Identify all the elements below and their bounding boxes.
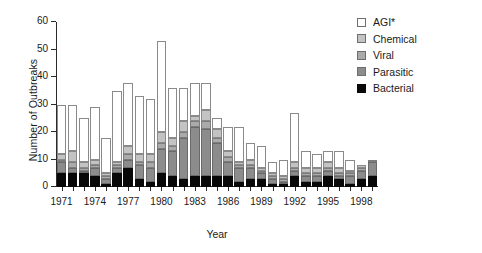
bar-segment — [179, 88, 189, 121]
x-axis-tick-label: 1992 — [284, 196, 306, 207]
x-axis-tick — [161, 187, 162, 191]
bar-segment — [79, 171, 89, 174]
bar-segment — [135, 162, 145, 165]
bar-segment — [135, 96, 145, 154]
bar[interactable] — [357, 165, 367, 187]
bar-segment — [190, 83, 200, 116]
bar[interactable] — [190, 83, 200, 188]
bar[interactable] — [279, 160, 289, 188]
bar-segment — [135, 179, 145, 187]
bar-segment — [79, 118, 89, 162]
bar-segment — [334, 168, 344, 174]
y-axis-tick: 20 — [51, 131, 56, 132]
x-axis-tick — [261, 187, 262, 191]
bar-segment — [246, 168, 256, 179]
bar[interactable] — [90, 107, 100, 187]
y-axis-tick: 0 — [51, 186, 56, 187]
legend-item[interactable]: Parasitic — [357, 64, 475, 81]
bar-segment — [223, 162, 233, 176]
bar[interactable] — [123, 83, 133, 188]
bar[interactable] — [79, 118, 89, 187]
legend-item[interactable]: Viral — [357, 47, 475, 64]
bar-segment — [157, 143, 167, 149]
bar-segment — [123, 168, 133, 187]
bar-segment — [323, 171, 333, 177]
bar-segment — [212, 143, 222, 176]
bar-segment — [68, 173, 78, 187]
bar-segment — [190, 127, 200, 177]
x-axis-tick-label: 1989 — [250, 196, 272, 207]
bar-segment — [323, 176, 333, 187]
bar[interactable] — [257, 146, 267, 187]
x-axis-tick — [173, 187, 174, 191]
bar-segment — [257, 173, 267, 179]
bar[interactable] — [68, 105, 78, 188]
bar-segment — [312, 173, 322, 176]
bar[interactable] — [334, 151, 344, 187]
bar[interactable] — [201, 83, 211, 188]
bar[interactable] — [157, 41, 167, 187]
bar-segment — [90, 160, 100, 166]
bar[interactable] — [268, 162, 278, 187]
legend-item[interactable]: Chemical — [357, 31, 475, 48]
x-axis-tick-label: 1971 — [50, 196, 72, 207]
bar[interactable] — [368, 160, 378, 188]
bar[interactable] — [146, 99, 156, 187]
bar-segment — [312, 154, 322, 168]
bar[interactable] — [135, 96, 145, 187]
bar[interactable] — [290, 113, 300, 187]
bar-segment — [101, 173, 111, 176]
bar-segment — [345, 171, 355, 174]
bar-segment — [357, 165, 367, 168]
x-axis-tick — [317, 187, 318, 191]
bar-segment — [268, 176, 278, 179]
bar-segment — [146, 99, 156, 154]
y-axis-tick: 60 — [51, 21, 56, 22]
bar[interactable] — [323, 151, 333, 187]
x-axis-tick — [239, 187, 240, 191]
bar-segment — [168, 146, 178, 152]
bar[interactable] — [168, 88, 178, 187]
bar-segment — [179, 121, 189, 132]
bar[interactable] — [312, 154, 322, 187]
legend-swatch-icon — [357, 18, 366, 27]
x-axis-tick — [228, 187, 229, 191]
bar-segment — [190, 176, 200, 187]
bar-segment — [90, 107, 100, 159]
bar[interactable] — [301, 151, 311, 187]
bar[interactable] — [57, 105, 67, 188]
bar[interactable] — [246, 143, 256, 187]
x-axis-tick — [361, 187, 362, 191]
bar-segment — [234, 165, 244, 168]
bar-segment — [268, 184, 278, 187]
bar[interactable] — [223, 127, 233, 188]
bar-segment — [357, 171, 367, 179]
legend-item[interactable]: Bacterial — [357, 80, 475, 97]
bar-segment — [345, 160, 355, 171]
bar-segment — [179, 179, 189, 187]
bar-segment — [334, 179, 344, 187]
bar[interactable] — [101, 138, 111, 188]
x-axis-title: Year — [56, 228, 378, 240]
x-axis-tick-label: 1980 — [150, 196, 172, 207]
bar-segment — [268, 179, 278, 185]
bar-segment — [234, 182, 244, 188]
bar[interactable] — [112, 91, 122, 187]
bar-segment — [157, 132, 167, 143]
y-axis-tick-label: 10 — [37, 153, 48, 164]
y-axis-tick: 30 — [51, 104, 56, 105]
bar-segment — [279, 176, 289, 179]
bar[interactable] — [345, 160, 355, 188]
bar-segment — [146, 162, 156, 168]
bar[interactable] — [179, 88, 189, 187]
x-axis-tick — [250, 187, 251, 191]
legend-label: Parasitic — [373, 66, 413, 78]
legend-item[interactable]: AGI* — [357, 14, 475, 31]
bar-segment — [290, 162, 300, 168]
bar-segment — [179, 132, 189, 138]
bar-segment — [190, 121, 200, 127]
bar[interactable] — [234, 127, 244, 188]
bar-segment — [112, 91, 122, 163]
bar-segment — [68, 105, 78, 152]
bar[interactable] — [212, 118, 222, 187]
